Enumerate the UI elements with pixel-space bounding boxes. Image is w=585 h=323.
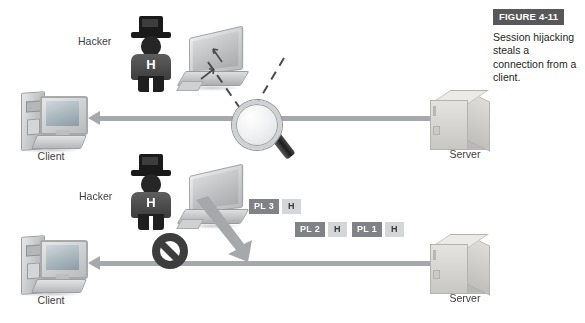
hacker-badge-bottom: H — [131, 196, 171, 210]
client-node-bottom: Client — [8, 232, 94, 306]
laptop-lid-icon — [189, 163, 243, 214]
magnifying-glass-icon — [232, 100, 308, 170]
packet-label-3: PL 3 H — [249, 199, 301, 214]
figure-number-badge: FIGURE 4-11 — [493, 9, 564, 25]
hacker-legs — [138, 214, 164, 230]
keyboard-icon — [31, 279, 87, 293]
packet-header-3: H — [282, 199, 301, 214]
client-label-bottom: Client — [8, 294, 94, 306]
server-node-top: Server — [420, 84, 510, 160]
server-drive-bay — [433, 270, 440, 279]
packet-header-2: H — [328, 222, 347, 237]
server-drive-bay — [433, 126, 440, 135]
laptop-node-bottom — [177, 176, 251, 236]
hacker-node-top: H — [123, 14, 179, 92]
packet-label-1: PL 1 H — [352, 222, 404, 237]
server-vent — [433, 106, 436, 116]
server-label-top: Server — [420, 148, 510, 160]
laptop-screen — [193, 31, 238, 71]
hacker-legs — [138, 76, 164, 92]
packet-payload-1: PL 1 — [352, 222, 382, 237]
laptop-lid-icon — [189, 25, 243, 76]
hacker-head — [141, 36, 161, 56]
monitor-screen — [46, 245, 79, 270]
client-label-top: Client — [8, 150, 94, 162]
no-entry-icon — [152, 233, 196, 277]
figure-caption-text: Session hijacking steals a connection fr… — [493, 31, 581, 85]
packet-payload-3: PL 3 — [249, 199, 279, 214]
hacker-label-bottom: Hacker — [79, 190, 112, 202]
server-label-bottom: Server — [420, 292, 510, 304]
client-node-top: Client — [8, 88, 94, 162]
hacker-label-top: Hacker — [78, 35, 111, 47]
figure-canvas: Client H Hacker — [0, 0, 585, 323]
packet-label-2: PL 2 H — [295, 222, 347, 237]
hacker-head — [141, 174, 161, 194]
server-node-bottom: Server — [420, 228, 510, 304]
laptop-node-top — [177, 38, 251, 98]
magnifier-lens — [232, 100, 282, 150]
packet-payload-2: PL 2 — [295, 222, 325, 237]
monitor-screen — [46, 101, 79, 126]
connection-arrow-bottom — [88, 256, 466, 270]
packet-header-1: H — [385, 222, 404, 237]
keyboard-icon — [31, 135, 87, 149]
hacker-badge-top: H — [131, 58, 171, 72]
laptop-screen — [193, 169, 238, 209]
figure-caption-block: FIGURE 4-11 Session hijacking steals a c… — [493, 6, 585, 85]
server-vent — [433, 250, 436, 260]
hacker-node-bottom: H — [123, 152, 179, 230]
